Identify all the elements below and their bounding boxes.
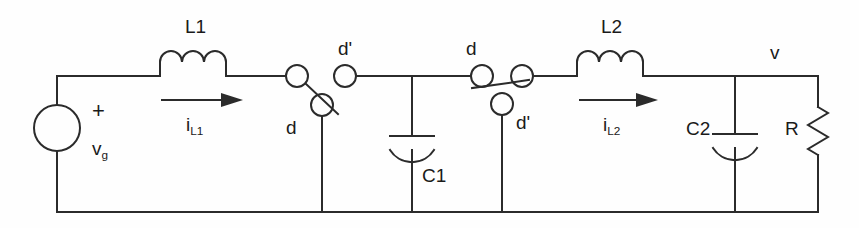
label-current-il2: iL2 <box>603 115 620 134</box>
label-output-voltage: v <box>770 43 780 62</box>
switch1-throw-bar <box>306 84 338 114</box>
inductor-l1-coils <box>160 51 226 62</box>
label-switch1-d: d <box>286 118 297 137</box>
label-current-il1-subscript: L1 <box>190 124 203 137</box>
label-source-polarity: + <box>92 100 105 122</box>
switch1-terminal-upper-right <box>334 65 356 87</box>
label-capacitor-c1: C1 <box>422 166 446 185</box>
circuit-schematic <box>0 0 859 228</box>
current-arrow-il1-head <box>221 93 243 107</box>
switch1-terminal-left <box>286 65 308 87</box>
inductor-l2-coils <box>577 51 643 62</box>
label-current-il2-subscript: L2 <box>607 124 620 137</box>
switch2-terminal-right <box>511 65 533 87</box>
resistor-r-zigzag <box>808 107 828 155</box>
label-current-il1: iL1 <box>186 115 203 134</box>
label-switch2-dprime: d' <box>516 113 530 132</box>
label-switch1-dprime: d' <box>338 39 352 58</box>
label-source-vg: vg <box>92 139 108 158</box>
current-arrow-il2-head <box>636 93 658 107</box>
label-source-vg-base: v <box>92 138 102 159</box>
label-source-vg-subscript: g <box>102 148 109 161</box>
label-switch2-d: d <box>466 39 477 58</box>
label-inductor-l2: L2 <box>601 17 622 36</box>
label-resistor-r: R <box>785 119 799 138</box>
switch2-terminal-left <box>471 65 493 87</box>
circuit-diagram-canvas: L1 iL1 + vg d d' d d' C1 L2 iL2 C2 R v <box>0 0 859 228</box>
label-inductor-l1: L1 <box>185 17 206 36</box>
switch2-terminal-lower <box>491 93 513 115</box>
voltage-source-symbol <box>34 105 80 151</box>
label-capacitor-c2: C2 <box>686 119 710 138</box>
